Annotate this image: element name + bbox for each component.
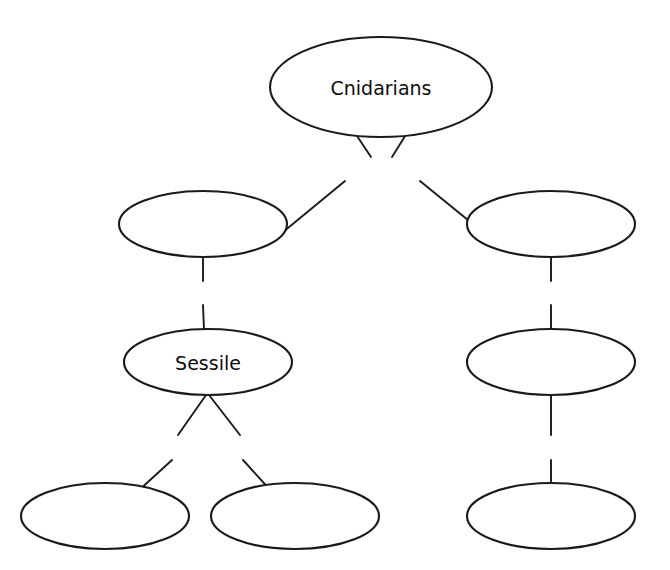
node-mid-right-ellipse[interactable]: [467, 191, 635, 257]
node-leaf-3[interactable]: [467, 483, 635, 549]
node-leaf-1[interactable]: [21, 483, 189, 549]
node-mid-left[interactable]: [119, 191, 287, 257]
node-leaf-2-ellipse[interactable]: [211, 483, 379, 549]
node-leaf-2[interactable]: [211, 483, 379, 549]
link-label-examples-right: examples: [510, 436, 592, 456]
connector-sessile-to-examples-left: [178, 395, 206, 435]
node-third-right-ellipse[interactable]: [467, 329, 635, 395]
connector-group-body-types: [277, 133, 490, 238]
node-third-right[interactable]: [467, 329, 635, 395]
connector-sessile-to-examples-right: [209, 395, 240, 435]
link-label-is-right: is: [545, 283, 558, 302]
concept-map-canvas: Cnidarians Sessile body types is is exam…: [0, 0, 670, 570]
node-mid-left-ellipse[interactable]: [119, 191, 287, 257]
node-root[interactable]: Cnidarians: [270, 37, 492, 137]
link-label-is-left: is: [197, 283, 210, 302]
link-label-examples-left: examples: [166, 436, 248, 456]
node-third-left[interactable]: Sessile: [124, 329, 292, 395]
node-leaf-1-ellipse[interactable]: [21, 483, 189, 549]
node-mid-right[interactable]: [467, 191, 635, 257]
node-leaf-3-ellipse[interactable]: [467, 483, 635, 549]
connector-isleft-to-thirdleft: [203, 305, 204, 330]
link-label-body-types: body types: [334, 157, 428, 177]
node-root-label: Cnidarians: [331, 77, 432, 99]
node-third-left-label: Sessile: [175, 352, 241, 374]
